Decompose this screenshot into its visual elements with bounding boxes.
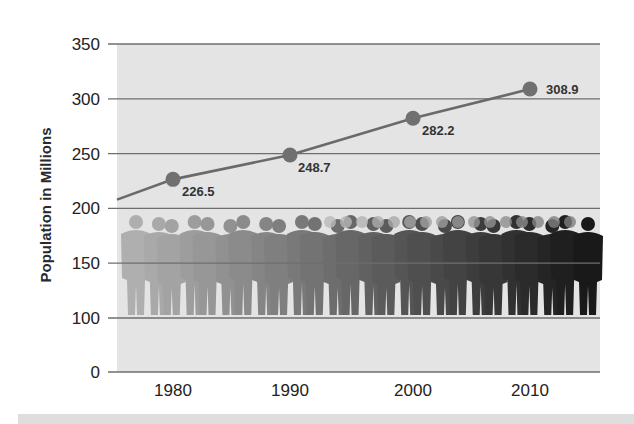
data-point-label: 308.9 xyxy=(546,82,579,97)
data-point-marker xyxy=(406,111,421,126)
x-tick-label: 2000 xyxy=(394,381,432,400)
y-tick-label: 350 xyxy=(72,35,100,54)
data-point-label: 282.2 xyxy=(422,123,455,138)
y-axis-title: Population in Millions xyxy=(37,128,54,283)
y-tick-label: 150 xyxy=(72,254,100,273)
data-point-label: 226.5 xyxy=(182,184,215,199)
x-tick-label: 1990 xyxy=(271,381,309,400)
y-tick-label: 0 xyxy=(91,363,100,382)
y-tick-label: 200 xyxy=(72,199,100,218)
x-tick-label: 2010 xyxy=(511,381,549,400)
y-tick-label: 300 xyxy=(72,90,100,109)
y-tick-label: 250 xyxy=(72,145,100,164)
bottom-strip xyxy=(18,414,634,424)
data-point-label: 248.7 xyxy=(298,160,331,175)
y-tick-label: 100 xyxy=(72,309,100,328)
population-line-chart: 01001502002503003501980199020002010Popul… xyxy=(0,0,634,424)
data-point-marker xyxy=(283,148,298,163)
data-point-marker xyxy=(523,82,538,97)
x-tick-label: 1980 xyxy=(154,381,192,400)
data-point-marker xyxy=(166,172,181,187)
